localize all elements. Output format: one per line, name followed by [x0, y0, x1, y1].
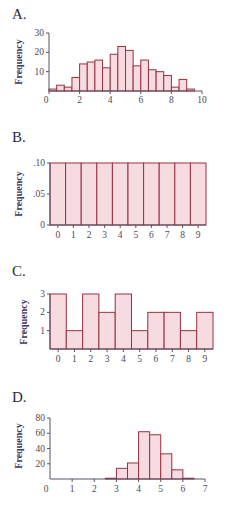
- histogram-bar: [139, 432, 150, 479]
- histogram-bar: [128, 463, 139, 479]
- svg-text:2: 2: [92, 484, 97, 494]
- histogram-bar: [161, 454, 172, 479]
- histogram-bar: [172, 470, 183, 479]
- histogram-d: 2040608001234567Frequency: [0, 0, 238, 509]
- svg-text:80: 80: [36, 413, 46, 423]
- svg-text:6: 6: [180, 484, 185, 494]
- svg-text:20: 20: [36, 459, 46, 469]
- svg-text:60: 60: [36, 428, 46, 438]
- histogram-bar: [150, 435, 161, 479]
- svg-text:3: 3: [114, 484, 119, 494]
- svg-text:4: 4: [136, 484, 141, 494]
- y-axis-label: Frequency: [13, 423, 24, 468]
- svg-text:0: 0: [44, 484, 49, 494]
- svg-text:7: 7: [203, 484, 208, 494]
- svg-text:5: 5: [158, 484, 163, 494]
- histogram-bar: [116, 468, 127, 479]
- panel-d: D. 2040608001234567Frequency: [0, 0, 238, 509]
- svg-text:40: 40: [36, 444, 46, 454]
- svg-text:1: 1: [70, 484, 75, 494]
